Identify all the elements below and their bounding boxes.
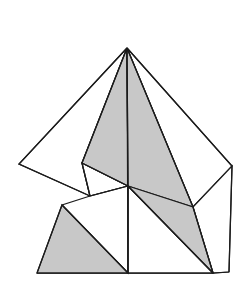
- origami-figure-svg: [0, 0, 251, 285]
- origami-figure-container: Origami Folded Form Diagram Symmetrical …: [0, 0, 251, 285]
